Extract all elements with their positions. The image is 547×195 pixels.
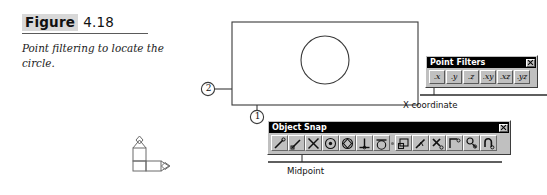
insertion-icon xyxy=(397,137,410,150)
perpendicular-icon xyxy=(358,137,371,150)
tracking-from-icon xyxy=(273,137,286,150)
callout-2-number: 2 xyxy=(204,83,213,93)
figure-caption-heading: Figure 4.18 xyxy=(22,14,172,31)
object-snap-button-row xyxy=(269,133,509,153)
snap-from-button[interactable] xyxy=(271,135,288,151)
snap-settings-button[interactable] xyxy=(480,135,497,151)
none-icon xyxy=(431,137,444,150)
point-filters-title: Point Filters xyxy=(430,57,485,68)
figure-label: Figure xyxy=(22,14,78,31)
point-filters-button-row: .x .y .z .xy .xz .yz xyxy=(427,68,536,86)
filter-y-button[interactable]: .y xyxy=(446,70,462,84)
object-snap-toolbar[interactable]: Object Snap xyxy=(267,120,511,155)
nearest-icon xyxy=(414,137,427,150)
center-icon xyxy=(324,137,337,150)
object-snap-titlebar[interactable]: Object Snap xyxy=(269,122,509,133)
apparent-intersection-icon xyxy=(448,137,461,150)
snap-endpoint-button[interactable] xyxy=(288,135,305,151)
snap-perpendicular-button[interactable] xyxy=(356,135,373,151)
snap-center-button[interactable] xyxy=(322,135,339,151)
midpoint-annotation: Midpoint xyxy=(287,166,324,176)
osnap-settings-icon xyxy=(482,137,495,150)
drawing-circle xyxy=(301,36,349,84)
point-filters-toolbar[interactable]: Point Filters .x .y .z .xy .xz .yz xyxy=(425,55,538,88)
drawing-rectangle xyxy=(232,22,418,105)
node-icon xyxy=(391,142,394,145)
quadrant-icon xyxy=(341,137,354,150)
parallel-icon xyxy=(465,137,478,150)
snap-quadrant-button[interactable] xyxy=(339,135,356,151)
snap-none-button[interactable] xyxy=(429,135,446,151)
ucs-icon xyxy=(133,136,170,171)
filter-z-button[interactable]: .z xyxy=(463,70,479,84)
point-filters-titlebar[interactable]: Point Filters xyxy=(427,57,536,68)
filter-x-button[interactable]: .x xyxy=(429,70,445,84)
filter-xz-button[interactable]: .xz xyxy=(497,70,513,84)
tangent-icon xyxy=(375,137,388,150)
snap-nearest-button[interactable] xyxy=(412,135,429,151)
snap-insertion-button[interactable] xyxy=(395,135,412,151)
object-snap-title: Object Snap xyxy=(272,122,327,133)
figure-caption: Figure 4.18 Point filtering to locate th… xyxy=(22,14,172,71)
snap-apparent-intersection-button[interactable] xyxy=(446,135,463,151)
endpoint-icon xyxy=(290,137,303,150)
x-coordinate-annotation: X coordinate xyxy=(403,100,457,110)
snap-tangent-button[interactable] xyxy=(373,135,390,151)
snap-midpoint-button[interactable] xyxy=(305,135,322,151)
filter-yz-button[interactable]: .yz xyxy=(514,70,530,84)
figure-description: Point filtering to locate the circle. xyxy=(22,41,164,71)
snap-parallel-button[interactable] xyxy=(463,135,480,151)
close-icon[interactable] xyxy=(526,59,535,67)
filter-xy-button[interactable]: .xy xyxy=(480,70,496,84)
midpoint-icon xyxy=(307,137,320,150)
callout-1-number: 1 xyxy=(253,111,262,121)
close-icon[interactable] xyxy=(499,124,508,132)
caption-divider xyxy=(22,33,148,34)
figure-number: 4.18 xyxy=(83,14,114,30)
